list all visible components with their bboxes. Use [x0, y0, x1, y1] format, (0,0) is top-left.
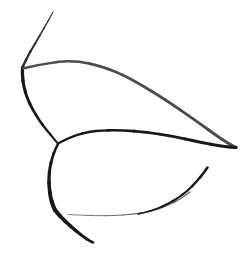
- line-drawing: [0, 0, 252, 255]
- drawing-canvas: [0, 0, 252, 255]
